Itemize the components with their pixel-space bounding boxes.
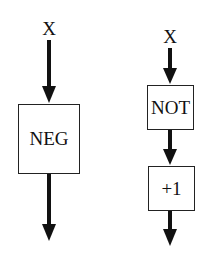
right-input-label: X: [159, 27, 181, 46]
left-input-label: X: [38, 19, 60, 38]
not-block: NOT: [147, 85, 194, 130]
neg-block: NEG: [18, 104, 80, 174]
plus-one-block: +1: [148, 166, 195, 211]
